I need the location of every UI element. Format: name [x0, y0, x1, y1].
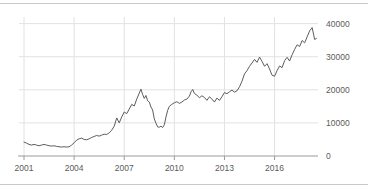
- y-tick-label: 40000: [326, 19, 350, 29]
- x-tick-labels-group: 200120042007201020132016: [15, 163, 285, 173]
- x-tick-label: 2013: [215, 163, 234, 173]
- gridlines-group: [19, 17, 318, 156]
- y-tick-label: 20000: [326, 85, 350, 95]
- x-tick-label: 2001: [15, 163, 34, 173]
- x-tick-label: 2004: [65, 163, 84, 173]
- bottom-divider-rule: [0, 184, 368, 185]
- series-line-group: [24, 28, 316, 147]
- y-tick-label: 0: [326, 151, 331, 161]
- x-tick-marks-group: [24, 156, 275, 160]
- line-chart: 010000200003000040000 200120042007201020…: [0, 0, 368, 180]
- y-tick-label: 30000: [326, 52, 350, 62]
- x-tick-label: 2010: [165, 163, 184, 173]
- series-line-index: [24, 28, 316, 147]
- x-tick-label: 2016: [265, 163, 284, 173]
- figure-container: 010000200003000040000 200120042007201020…: [0, 0, 368, 191]
- y-tick-labels-group: 010000200003000040000: [326, 19, 350, 161]
- x-tick-label: 2007: [115, 163, 134, 173]
- y-tick-label: 10000: [326, 118, 350, 128]
